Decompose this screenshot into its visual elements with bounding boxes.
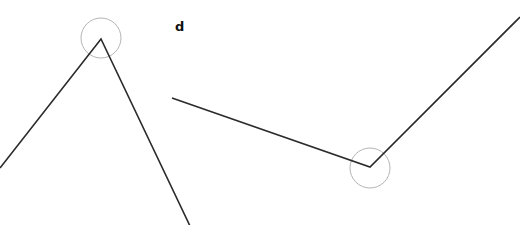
angles-layer xyxy=(0,17,520,225)
diagram-canvas xyxy=(0,0,520,225)
angle-label-d: d xyxy=(175,20,184,33)
angle-right xyxy=(172,17,520,188)
angle-left xyxy=(0,18,190,225)
angle-arms xyxy=(172,17,520,167)
angle-arms xyxy=(0,39,190,225)
